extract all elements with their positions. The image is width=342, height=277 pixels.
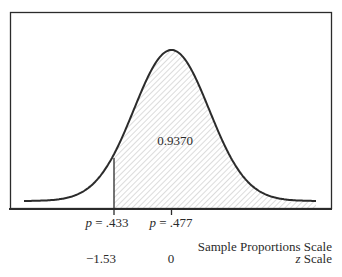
z-scale-label: z Scale	[296, 252, 332, 266]
shaded-area	[24, 50, 316, 209]
tick-label-p433: p = .433	[85, 216, 128, 230]
tick-label-p477: p = .477	[149, 216, 192, 230]
p477-value: = .477	[156, 215, 193, 230]
z-scale-text: Scale	[301, 251, 332, 266]
area-label: 0.9370	[157, 134, 193, 148]
z-tick-label-0: 0	[168, 252, 175, 266]
p433-value: = .433	[92, 215, 129, 230]
z-tick-label-neg153: −1.53	[86, 252, 116, 266]
